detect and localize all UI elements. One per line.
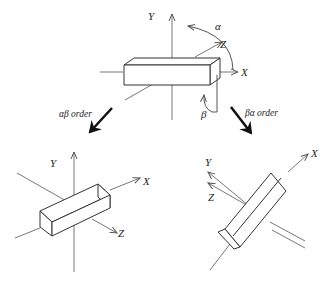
bottom-left-x-label: X xyxy=(142,175,151,187)
beta-alpha-order-label: βα order xyxy=(244,108,278,118)
top-figure: Y X Z α β xyxy=(100,10,249,120)
alpha-beta-order-arrow xyxy=(90,108,112,132)
bottom-right-x-label: X xyxy=(310,147,319,159)
bottom-right-figure: Y X Z xyxy=(205,147,319,270)
alpha-beta-order-label: αβ order xyxy=(59,109,92,119)
top-z-axis xyxy=(195,42,222,57)
top-z-label: Z xyxy=(220,38,227,50)
bottom-left-y-label: Y xyxy=(50,157,58,169)
bottom-right-y-label: Y xyxy=(205,156,213,168)
top-box xyxy=(124,58,220,85)
bottom-left-z-label: Z xyxy=(118,227,125,239)
top-y-label: Y xyxy=(148,10,156,22)
top-x-label: X xyxy=(240,66,249,78)
bottom-left-figure: Y X Z xyxy=(15,152,151,272)
beta-label: β xyxy=(200,108,207,120)
alpha-label: α xyxy=(215,20,221,32)
bottom-right-z-label: Z xyxy=(208,191,215,203)
rotation-order-diagram: Y X Z α β αβ order βα order Y X Z xyxy=(0,0,334,284)
